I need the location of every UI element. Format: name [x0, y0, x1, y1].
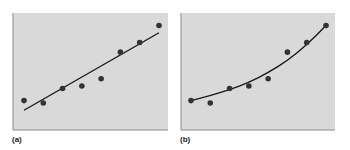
panel-b: (b)	[0, 0, 350, 150]
data-point	[265, 76, 271, 82]
data-point	[304, 40, 310, 46]
data-point	[207, 100, 213, 106]
plot-background	[181, 13, 335, 130]
data-point	[246, 83, 252, 89]
panel-label-b: (b)	[180, 135, 190, 144]
data-point	[285, 49, 291, 55]
data-point	[227, 86, 233, 92]
data-point	[323, 23, 329, 29]
data-point	[188, 98, 194, 104]
plot-b	[0, 0, 350, 150]
